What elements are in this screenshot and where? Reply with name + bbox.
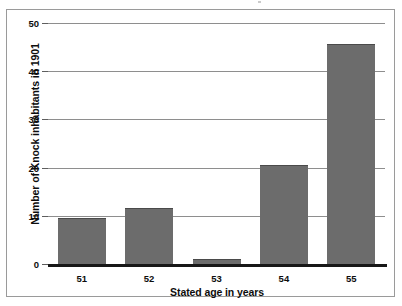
y-tick-label: 0 [9,259,39,270]
chart-figure: Number of Knock inhabitants in 1901 Stat… [0,0,402,306]
x-tick-label: 54 [260,273,308,284]
x-tick-label: 55 [327,273,375,284]
y-tick-label: 30 [9,114,39,125]
y-axis-tick [42,23,48,24]
bar [327,44,375,266]
bar [260,165,308,266]
y-tick-label: 20 [9,162,39,173]
x-axis-baseline [48,264,387,267]
plot-area: 5152535455 [48,23,385,266]
y-tick-label: 50 [9,18,39,29]
x-tick-label: 52 [125,273,173,284]
x-tick-label: 53 [193,273,241,284]
y-axis-tick [42,216,48,217]
scan-artifact-speck [258,1,261,3]
y-tick-label: 10 [9,210,39,221]
x-axis-title: Stated age in years [48,286,386,298]
x-tick-label: 51 [58,273,106,284]
bar [125,208,173,266]
gridline [48,23,385,24]
y-axis-tick [42,119,48,120]
y-axis-tick [42,71,48,72]
y-tick-label: 40 [9,66,39,77]
bar [58,218,106,266]
y-axis-tick [42,168,48,169]
